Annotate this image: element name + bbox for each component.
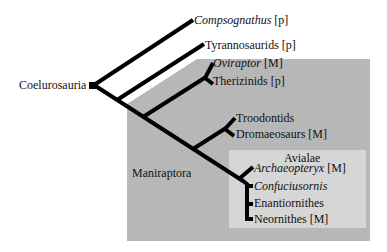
root-label: Coelurosauria: [19, 79, 86, 92]
taxon-tyrannosaurids: Tyrannosaurids [p]: [205, 39, 296, 52]
taxon-dromaeosaurs: Dromaeosaurs [M]: [236, 128, 327, 141]
cladogram: Coelurosauria Maniraptora Avialae Compso…: [0, 0, 387, 252]
taxon-troodontids: Troodontids: [236, 112, 294, 125]
taxon-confuciusornis: Confuciusornis: [254, 180, 327, 193]
taxon-archaeopteryx: Archaeopteryx [M]: [254, 162, 346, 175]
taxon-enantiornithes: Enantiornithes: [254, 197, 324, 210]
taxon-oviraptor: Oviraptor [M]: [213, 57, 283, 70]
taxon-compsognathus: Compsognathus [p]: [194, 14, 288, 27]
taxon-therizinids: Therizinids [p]: [213, 75, 285, 88]
tree-branches: [0, 0, 387, 252]
taxon-neornithes: Neornithes [M]: [254, 213, 328, 226]
clade-label-maniraptora: Maniraptora: [132, 167, 191, 180]
